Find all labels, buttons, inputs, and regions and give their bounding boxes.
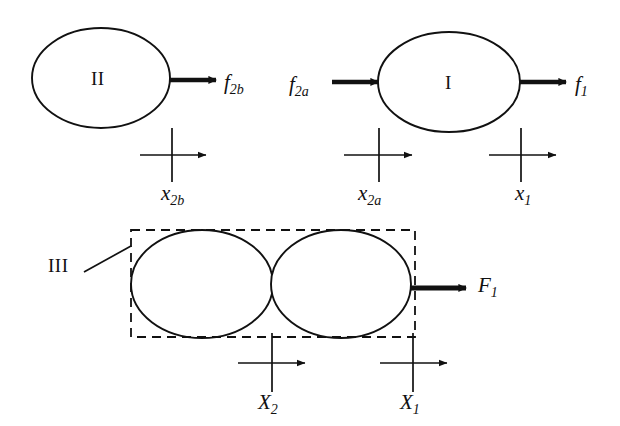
leader-line-III bbox=[84, 246, 131, 272]
coordinate-subscript-x1: 1 bbox=[524, 193, 531, 208]
force-label-f1: f1 bbox=[575, 74, 588, 99]
coordinate-subscript-x2b: 2b bbox=[170, 193, 184, 208]
diagram-canvas bbox=[0, 0, 620, 426]
force-subscript-f2a: 2a bbox=[295, 84, 309, 99]
coordinate-label-x1: x1 bbox=[515, 183, 531, 208]
force-label-f2b: f2b bbox=[224, 72, 244, 97]
coordinate-subscript-X1: 1 bbox=[413, 402, 420, 417]
force-label-f2a: f2a bbox=[289, 74, 309, 99]
coordinate-symbol-x2a: x bbox=[358, 181, 367, 205]
coordinate-marker-x1 bbox=[489, 128, 556, 182]
coordinate-marker-X1 bbox=[380, 333, 447, 392]
body-ellipse-III-left bbox=[131, 230, 273, 338]
coordinate-symbol-x1: x bbox=[515, 181, 524, 205]
body-label-II: II bbox=[91, 69, 105, 88]
coordinate-symbol-X1: X bbox=[400, 390, 413, 414]
force-subscript-f2b: 2b bbox=[230, 82, 244, 97]
group-label-III: III bbox=[48, 256, 68, 275]
force-subscript-F1: 1 bbox=[491, 285, 498, 300]
coordinate-symbol-X2: X bbox=[258, 390, 271, 414]
force-label-F1: F1 bbox=[478, 275, 498, 300]
coordinate-label-X1: X1 bbox=[400, 392, 420, 417]
coordinate-marker-x2b bbox=[140, 128, 206, 182]
coordinate-symbol-x2b: x bbox=[161, 181, 170, 205]
coordinate-label-x2b: x2b bbox=[161, 183, 184, 208]
body-label-I: I bbox=[445, 73, 452, 92]
coordinate-subscript-X2: 2 bbox=[271, 402, 278, 417]
coordinate-subscript-x2a: 2a bbox=[367, 193, 381, 208]
force-subscript-f1: 1 bbox=[581, 84, 588, 99]
body-ellipse-III-right bbox=[271, 230, 411, 338]
coordinate-marker-x2a bbox=[344, 128, 412, 182]
figure-root: II I III f2b f2a f1 F1 x2b x2a x1 X2 X1 bbox=[0, 0, 620, 426]
coordinate-label-x2a: x2a bbox=[358, 183, 381, 208]
coordinate-marker-X2 bbox=[238, 333, 305, 392]
coordinate-label-X2: X2 bbox=[258, 392, 278, 417]
force-symbol-F1: F bbox=[478, 273, 491, 297]
